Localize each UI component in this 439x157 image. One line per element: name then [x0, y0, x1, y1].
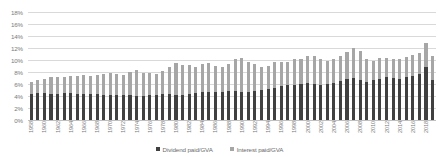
bar-segment-dividend[interactable] — [385, 77, 388, 120]
bar-column[interactable] — [166, 12, 173, 120]
bar-segment-interest[interactable] — [365, 59, 368, 82]
bar-column[interactable] — [212, 12, 219, 120]
legend-entry[interactable]: Interest paid/GVA — [230, 146, 284, 153]
bar-column[interactable] — [331, 12, 338, 120]
bar-segment-dividend[interactable] — [69, 93, 72, 120]
bar-segment-interest[interactable] — [392, 59, 395, 78]
bar-segment-interest[interactable] — [102, 74, 105, 95]
bar-segment-dividend[interactable] — [115, 95, 118, 120]
bar-column[interactable] — [81, 12, 88, 120]
bar-segment-interest[interactable] — [181, 65, 184, 95]
bar-stack[interactable] — [161, 71, 164, 120]
bar-column[interactable] — [403, 12, 410, 120]
bar-segment-interest[interactable] — [96, 75, 99, 94]
bar-segment-interest[interactable] — [234, 59, 237, 91]
bar-column[interactable] — [179, 12, 186, 120]
bar-segment-dividend[interactable] — [49, 94, 52, 120]
bar-segment-dividend[interactable] — [247, 92, 250, 120]
bar-stack[interactable] — [319, 59, 322, 120]
bar-column[interactable] — [74, 12, 81, 120]
bar-stack[interactable] — [49, 77, 52, 120]
bar-segment-dividend[interactable] — [188, 94, 191, 120]
bar-column[interactable] — [390, 12, 397, 120]
bar-stack[interactable] — [240, 58, 243, 120]
bar-stack[interactable] — [56, 77, 59, 120]
bar-segment-interest[interactable] — [253, 64, 256, 92]
bar-segment-interest[interactable] — [128, 72, 131, 95]
bar-column[interactable] — [423, 12, 430, 120]
bar-segment-dividend[interactable] — [207, 92, 210, 120]
bar-segment-dividend[interactable] — [82, 94, 85, 120]
bar-segment-dividend[interactable] — [142, 96, 145, 120]
bar-stack[interactable] — [69, 76, 72, 120]
bar-stack[interactable] — [253, 64, 256, 120]
bar-segment-interest[interactable] — [155, 74, 158, 95]
bar-column[interactable] — [61, 12, 68, 120]
bar-stack[interactable] — [142, 73, 145, 120]
bar-column[interactable] — [173, 12, 180, 120]
bar-segment-interest[interactable] — [247, 62, 250, 92]
bar-segment-interest[interactable] — [411, 55, 414, 76]
bar-segment-dividend[interactable] — [293, 85, 296, 120]
bar-segment-interest[interactable] — [326, 61, 329, 84]
bar-column[interactable] — [107, 12, 114, 120]
bar-stack[interactable] — [424, 43, 427, 120]
bar-segment-interest[interactable] — [332, 59, 335, 82]
bar-segment-interest[interactable] — [378, 58, 381, 78]
bar-stack[interactable] — [135, 70, 138, 120]
bar-segment-interest[interactable] — [207, 63, 210, 92]
bar-stack[interactable] — [82, 75, 85, 120]
bar-segment-dividend[interactable] — [227, 91, 230, 120]
bar-segment-interest[interactable] — [82, 75, 85, 94]
bar-segment-interest[interactable] — [313, 56, 316, 84]
bar-stack[interactable] — [392, 59, 395, 120]
bar-segment-dividend[interactable] — [392, 78, 395, 120]
bar-segment-dividend[interactable] — [102, 95, 105, 120]
bar-segment-dividend[interactable] — [405, 77, 408, 120]
bar-column[interactable] — [206, 12, 213, 120]
bar-segment-interest[interactable] — [194, 67, 197, 93]
bar-segment-dividend[interactable] — [286, 85, 289, 120]
bar-stack[interactable] — [221, 67, 224, 120]
bar-segment-dividend[interactable] — [280, 86, 283, 120]
bar-segment-interest[interactable] — [286, 62, 289, 85]
bar-segment-dividend[interactable] — [63, 93, 66, 120]
bar-segment-dividend[interactable] — [339, 81, 342, 120]
bar-segment-interest[interactable] — [135, 70, 138, 96]
bar-segment-interest[interactable] — [30, 82, 33, 94]
bar-column[interactable] — [265, 12, 272, 120]
bar-stack[interactable] — [286, 62, 289, 120]
bar-stack[interactable] — [227, 64, 230, 120]
bar-column[interactable] — [252, 12, 259, 120]
bar-segment-dividend[interactable] — [411, 76, 414, 120]
bar-segment-dividend[interactable] — [240, 92, 243, 120]
bar-column[interactable] — [120, 12, 127, 120]
bar-stack[interactable] — [313, 56, 316, 120]
bar-segment-interest[interactable] — [89, 76, 92, 95]
bar-segment-interest[interactable] — [405, 57, 408, 77]
bar-segment-dividend[interactable] — [214, 92, 217, 120]
bar-stack[interactable] — [359, 51, 362, 120]
bar-column[interactable] — [291, 12, 298, 120]
bar-column[interactable] — [87, 12, 94, 120]
bar-stack[interactable] — [385, 58, 388, 120]
bar-segment-dividend[interactable] — [181, 95, 184, 120]
bar-segment-dividend[interactable] — [89, 94, 92, 120]
bar-segment-interest[interactable] — [280, 62, 283, 86]
bar-stack[interactable] — [411, 55, 414, 120]
bar-column[interactable] — [396, 12, 403, 120]
bar-segment-dividend[interactable] — [365, 82, 368, 120]
bar-segment-interest[interactable] — [36, 80, 39, 93]
bar-segment-dividend[interactable] — [56, 94, 59, 120]
bar-column[interactable] — [94, 12, 101, 120]
bar-column[interactable] — [245, 12, 252, 120]
bar-column[interactable] — [54, 12, 61, 120]
bar-stack[interactable] — [115, 74, 118, 120]
bar-column[interactable] — [239, 12, 246, 120]
bar-stack[interactable] — [201, 64, 204, 120]
bar-column[interactable] — [429, 12, 436, 120]
bar-segment-interest[interactable] — [122, 75, 125, 95]
bar-segment-interest[interactable] — [339, 56, 342, 81]
bar-column[interactable] — [140, 12, 147, 120]
bar-stack[interactable] — [306, 56, 309, 120]
